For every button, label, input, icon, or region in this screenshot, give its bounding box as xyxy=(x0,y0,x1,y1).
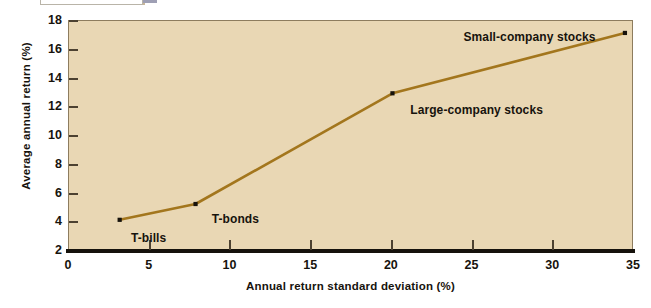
point-annotation: Large-company stocks xyxy=(410,103,543,117)
x-axis-title: Annual return standard deviation (%) xyxy=(68,280,633,292)
point-annotation: T-bonds xyxy=(212,212,259,226)
x-tick-label: 35 xyxy=(613,258,651,272)
x-tick-label: 30 xyxy=(532,258,572,272)
x-tick-label: 20 xyxy=(371,258,411,272)
x-tick-label: 5 xyxy=(129,258,169,272)
point-annotation: T-bills xyxy=(131,231,166,245)
risk-return-line-chart: 24681012141618 05101520253035 Average an… xyxy=(0,0,651,308)
point-annotation: Small-company stocks xyxy=(464,30,596,44)
x-axis-tick-labels: 05101520253035 xyxy=(68,258,633,274)
x-tick-label: 10 xyxy=(209,258,249,272)
annotation-layer: T-billsT-bondsLarge-company stocksSmall-… xyxy=(68,20,633,250)
y-axis-title: Average annual return (%) xyxy=(20,21,32,211)
x-tick-label: 15 xyxy=(290,258,330,272)
x-tick-label: 25 xyxy=(452,258,492,272)
y-tick-label: 2 xyxy=(22,244,62,256)
y-tick-label: 4 xyxy=(22,215,62,227)
x-tick-label: 0 xyxy=(48,258,88,272)
